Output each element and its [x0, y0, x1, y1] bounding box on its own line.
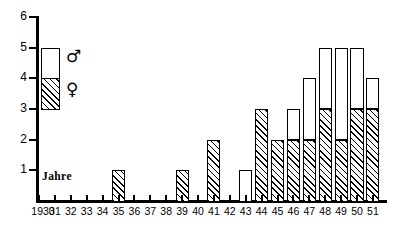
bar-segment-male: [287, 109, 300, 140]
x-tick-mark: [54, 195, 56, 201]
bar-segment-female: [271, 140, 284, 202]
x-tick-mark: [86, 195, 88, 201]
y-tick-mark: [29, 47, 37, 49]
x-tick-mark: [165, 195, 167, 201]
bar-segment-male: [303, 78, 316, 139]
y-tick-mark: [29, 77, 37, 79]
x-tick-mark: [38, 195, 40, 201]
x-tick-mark: [277, 195, 279, 201]
bar-segment-male: [350, 48, 363, 109]
x-tick-mark: [261, 195, 263, 201]
bar-segment-male: [335, 48, 348, 140]
x-axis-note: Jahre: [42, 170, 72, 182]
x-tick-mark: [292, 195, 294, 201]
bar-segment-female: [303, 140, 316, 202]
x-tick-mark: [181, 195, 183, 201]
x-tick-mark: [213, 195, 215, 201]
legend-sample-bar: [41, 48, 60, 110]
y-tick-label: 1: [0, 163, 27, 175]
x-tick-mark: [372, 195, 374, 201]
bar-segment-female: [319, 109, 332, 202]
y-tick-label: 2: [0, 133, 27, 145]
bar-segment-male: [366, 78, 379, 109]
bar-segment-female: [207, 140, 220, 202]
bar-segment-female: [287, 140, 300, 202]
x-tick-mark: [118, 195, 120, 201]
venus-symbol-icon: ♀: [66, 81, 78, 98]
bar-segment-female: [366, 109, 379, 202]
x-tick-mark: [356, 195, 358, 201]
x-tick-mark: [149, 195, 151, 201]
legend-swatch-male: [41, 48, 60, 79]
y-tick-mark: [29, 169, 37, 171]
bar-segment-female: [255, 109, 268, 202]
y-tick-mark: [29, 108, 37, 110]
x-tick-mark: [324, 195, 326, 201]
mars-symbol-icon: ♂: [66, 48, 81, 65]
y-tick-label: 3: [0, 102, 27, 114]
x-tick-mark: [340, 195, 342, 201]
x-tick-mark: [197, 195, 199, 201]
x-tick-label: 51: [364, 206, 382, 217]
y-tick-label: 4: [0, 71, 27, 83]
x-tick-mark: [133, 195, 135, 201]
x-tick-mark: [245, 195, 247, 201]
x-tick-mark: [102, 195, 104, 201]
bar-segment-male: [319, 48, 332, 109]
legend-swatch-female: [41, 78, 60, 110]
bar-segment-female: [350, 109, 363, 202]
x-tick-mark: [229, 195, 231, 201]
y-tick-mark: [29, 139, 37, 141]
x-tick-mark: [308, 195, 310, 201]
bar-chart: 123456 193031323334353637383940414243444…: [0, 0, 400, 226]
y-tick-label: 5: [0, 41, 27, 53]
y-tick-mark: [29, 16, 37, 18]
bar-segment-female: [335, 140, 348, 202]
x-tick-mark: [70, 195, 72, 201]
y-tick-label: 6: [0, 10, 27, 22]
